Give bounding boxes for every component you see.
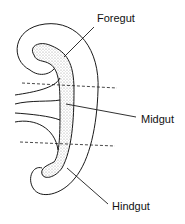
gut-tube <box>32 44 74 178</box>
embryonic-gut-diagram: Foregut Midgut Hindgut <box>0 0 185 224</box>
midgut-label: Midgut <box>141 113 174 125</box>
outer-curve-upper <box>30 66 56 74</box>
yolk-stalk-upper <box>15 78 60 95</box>
foregut-label: Foregut <box>97 12 135 24</box>
yolk-stalk-mid-lower <box>15 113 60 120</box>
midgut-leader <box>66 104 136 117</box>
hindgut-label: Hindgut <box>112 200 150 212</box>
hindgut-leader <box>67 168 108 204</box>
yolk-stalk-lower <box>15 121 58 150</box>
yolk-stalk-mid-upper <box>15 100 60 104</box>
foregut-leader <box>64 27 94 57</box>
